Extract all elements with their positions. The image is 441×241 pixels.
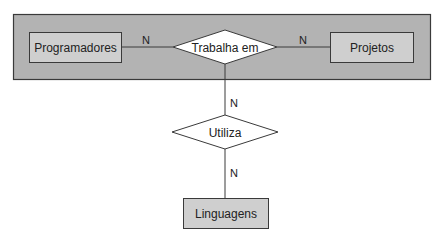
entity-projetos[interactable]: Projetos xyxy=(331,33,414,63)
entity-label: Linguagens xyxy=(195,207,257,221)
cardinality-label: N xyxy=(230,167,238,179)
entity-linguagens[interactable]: Linguagens xyxy=(184,199,269,229)
cardinality-label: N xyxy=(230,97,238,109)
cardinality-label: N xyxy=(299,34,307,46)
entity-label: Programadores xyxy=(34,41,117,55)
relationship-label: Trabalha em xyxy=(192,41,259,55)
er-diagram: Programadores Trabalha em Projetos Utili… xyxy=(0,0,441,241)
relationship-label: Utiliza xyxy=(209,126,242,140)
entity-label: Projetos xyxy=(350,41,394,55)
relationship-utiliza[interactable]: Utiliza xyxy=(172,115,278,149)
cardinality-label: N xyxy=(142,34,150,46)
entity-programadores[interactable]: Programadores xyxy=(30,33,122,63)
